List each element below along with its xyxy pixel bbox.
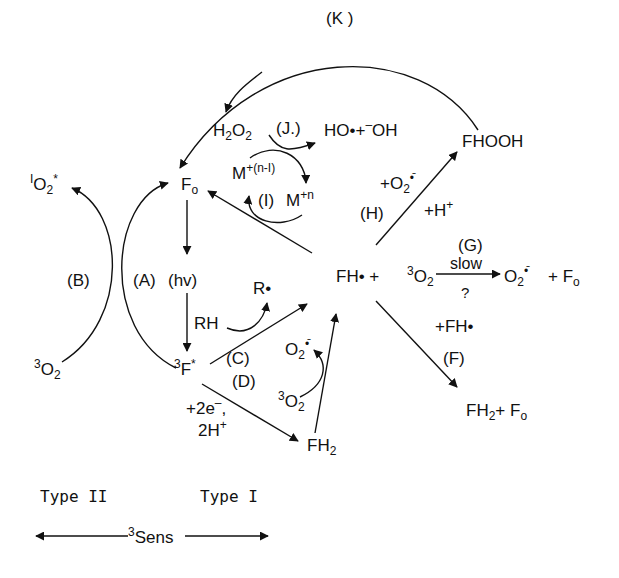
species-triplet-o2-left: 3O2 [34,361,61,378]
step-label-d: (D) [232,373,256,390]
species-fh2: FH2 [307,437,336,454]
species-singlet-o2: IO2* [30,176,58,193]
product-f0-g: + Fo [548,268,580,285]
species-r-radical: R• [253,280,271,297]
species-hydroxyl-products: HO•+–OH [324,122,398,139]
reagent-h-proton: +H+ [424,202,453,219]
reagent-d-electrons: +2e–, [186,400,226,417]
species-superoxide-mid: O2•̄ [285,341,309,358]
species-triplet-flavin: 3F* [174,361,196,378]
step-label-c: (C) [226,350,250,367]
step-label-j: (J.) [276,120,301,137]
product-fh2-f0: FH2+ Fo [466,402,527,419]
step-label-k: (K ) [326,10,353,27]
step-label-b: (B) [67,272,90,289]
legend-type-i: Type I [200,489,258,505]
reagent-d-protons: 2H+ [198,422,227,439]
species-triplet-o2-mid: 3O2 [278,393,305,410]
legend-sensitizer: 3Sens [128,529,173,546]
step-label-h: (H) [360,205,384,222]
step-label-i: (I) [258,192,274,209]
arrow-fh2-to-fhdot [315,314,336,433]
species-fh-radical: FH• + [336,268,379,285]
species-m-oxidized: M+n [286,192,314,209]
species-superoxide-right: O2•̄ [504,268,528,285]
arrow-k-arc [180,67,478,168]
legend-type-ii: Type II [40,489,107,505]
step-label-g: (G) [458,237,483,254]
step-label-f: (F) [443,350,465,367]
reagent-h-superoxide: +O2•̄ [380,175,414,192]
arrow-f [376,301,457,387]
species-h2o2: H2O2 [213,122,252,139]
species-f0: Fo [181,176,198,193]
reagent-f-fh-radical: +FH• [435,318,474,335]
species-fhooh: FHOOH [462,133,523,150]
arrow-rh-to-r [227,303,267,331]
step-label-a: (A) [133,272,156,289]
arrow-h [376,152,457,245]
reagent-g-uncertain: ? [461,285,469,300]
hv-label: (hv) [168,272,197,289]
species-m-reduced: M+(n-I) [232,165,275,182]
species-rh: RH [194,315,219,332]
species-triplet-o2-right: 3O2 [407,268,434,285]
reagent-g-slow: slow [450,256,482,272]
